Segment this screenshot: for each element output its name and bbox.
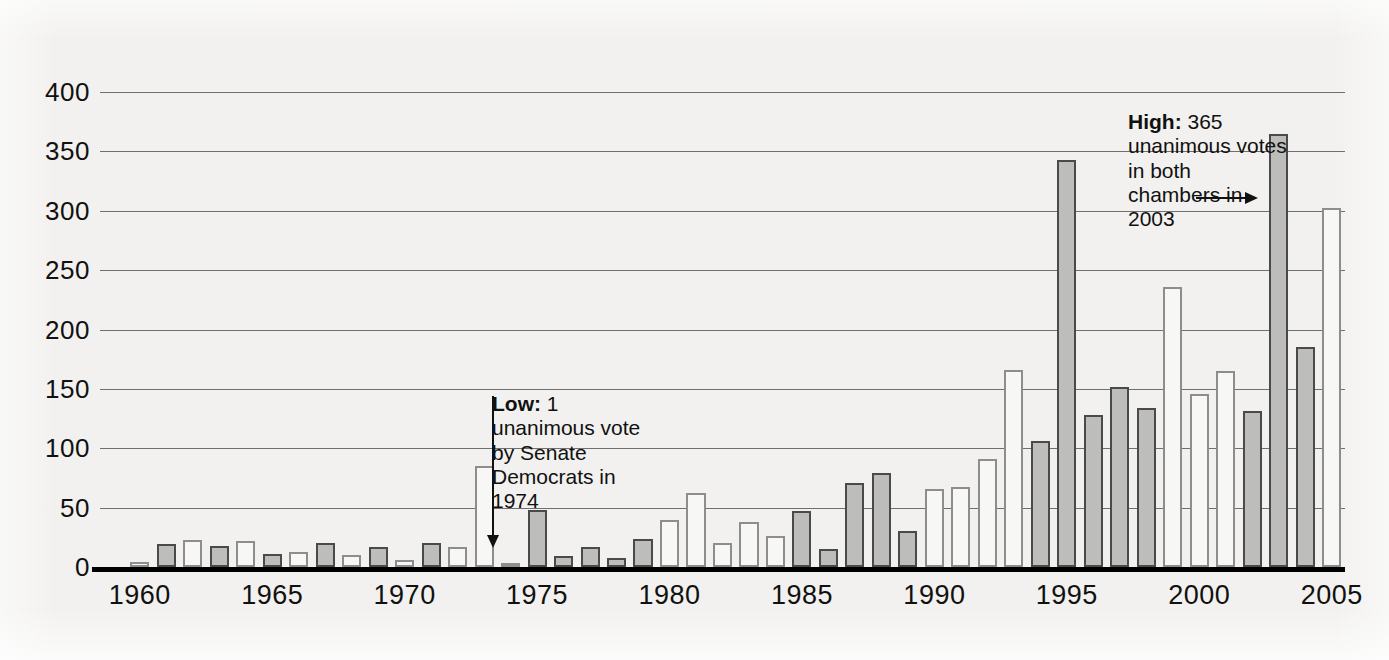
y-axis-tick-label: 350: [18, 138, 90, 164]
x-axis-labels: 1960196519701975198019851990199520002005: [100, 580, 1345, 620]
x-axis-tick-label: 1985: [742, 580, 862, 611]
y-axis-tick-label: 300: [18, 198, 90, 224]
bar-1987: [845, 483, 864, 567]
arrow-head: [487, 535, 499, 548]
low-annotation-body: unanimous vote by Senate Democrats in 19…: [492, 416, 640, 512]
x-axis-tick-label: 1975: [477, 580, 597, 611]
bar-2005: [1322, 208, 1341, 567]
bar-1961: [157, 544, 176, 567]
high-annotation-body: unanimous votes in both chambers in 2003: [1128, 134, 1287, 230]
bar-1986: [819, 549, 838, 567]
bar-2002: [1243, 411, 1262, 567]
high-annotation-label: High:: [1128, 110, 1182, 133]
bar-1981: [686, 493, 705, 567]
bar-1991: [951, 487, 970, 567]
y-axis-tick-label: 50: [18, 495, 90, 521]
x-axis-tick-label: 1965: [212, 580, 332, 611]
y-axis-tick-label: 150: [18, 376, 90, 402]
bar-1990: [925, 489, 944, 567]
x-axis-tick-label: 2005: [1272, 580, 1389, 611]
bar-1970: [395, 560, 414, 567]
bar-1998: [1137, 408, 1156, 567]
bar-1999: [1163, 287, 1182, 567]
bar-1982: [713, 543, 732, 567]
bar-1968: [342, 555, 361, 567]
bar-1980: [660, 520, 679, 568]
y-axis-tick-label: 100: [18, 435, 90, 461]
bar-2001: [1216, 371, 1235, 567]
bar-1993: [1004, 370, 1023, 567]
bar-1985: [792, 511, 811, 567]
bar-1978: [607, 558, 626, 568]
bar-1975: [528, 510, 547, 567]
low-annotation-label: Low:: [492, 392, 541, 415]
x-axis-tick-label: 1970: [345, 580, 465, 611]
bar-1997: [1110, 387, 1129, 568]
bar-2000: [1190, 394, 1209, 567]
bar-1995: [1057, 160, 1076, 567]
low-annotation: Low: 1 unanimous vote by Senate Democrat…: [492, 392, 642, 514]
bar-2004: [1296, 347, 1315, 567]
bar-1989: [898, 531, 917, 567]
bar-1979: [633, 539, 652, 568]
y-axis-tick-label: 400: [18, 79, 90, 105]
x-axis-tick-label: 2000: [1139, 580, 1259, 611]
x-axis-tick-label: 1995: [1007, 580, 1127, 611]
bar-1983: [739, 522, 758, 567]
bar-1976: [554, 556, 573, 567]
y-axis-tick-label: 0: [18, 554, 90, 580]
x-axis-tick-label: 1980: [610, 580, 730, 611]
y-axis-tick-label: 200: [18, 317, 90, 343]
high-annotation-value: 365: [1188, 110, 1223, 133]
x-axis-tick-label: 1960: [80, 580, 200, 611]
bar-1962: [183, 540, 202, 567]
bar-1992: [978, 459, 997, 567]
x-axis-line: [92, 567, 1345, 572]
bar-1994: [1031, 441, 1050, 567]
bar-1971: [422, 543, 441, 567]
bar-1977: [581, 547, 600, 567]
bar-1988: [872, 473, 891, 567]
bar-1969: [369, 547, 388, 567]
bar-1967: [316, 543, 335, 567]
bar-1963: [210, 546, 229, 567]
bar-1996: [1084, 415, 1103, 567]
bar-1964: [236, 541, 255, 567]
bar-1972: [448, 547, 467, 567]
chart-figure: 400350300250200150100500 196019651970197…: [0, 0, 1389, 660]
high-annotation: High: 365 unanimous votes in both chambe…: [1128, 110, 1288, 232]
bar-1966: [289, 552, 308, 567]
bar-1984: [766, 536, 785, 567]
x-axis-tick-label: 1990: [874, 580, 994, 611]
bar-1965: [263, 554, 282, 567]
y-axis-tick-label: 250: [18, 257, 90, 283]
low-annotation-value: 1: [547, 392, 559, 415]
